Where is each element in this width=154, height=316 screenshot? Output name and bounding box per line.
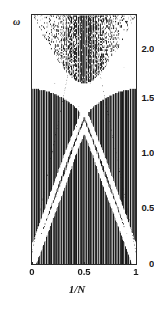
y-axis-title: ω [13, 16, 20, 27]
x-tick-mark [32, 262, 33, 265]
x-tick-mark [136, 262, 137, 265]
x-axis-title: 1/N [0, 283, 154, 295]
spectrum-plot-canvas [32, 15, 136, 264]
x-tick-label: 0 [22, 267, 42, 277]
x-tick-label: 0.5 [74, 267, 94, 277]
spectrum-figure: ω 2.0 1.5 1.0 0.5 0 0 0.5 1 1/N [0, 0, 154, 316]
plot-area [31, 14, 137, 265]
x-tick-mark [84, 262, 85, 265]
x-tick-label: 1 [126, 267, 146, 277]
